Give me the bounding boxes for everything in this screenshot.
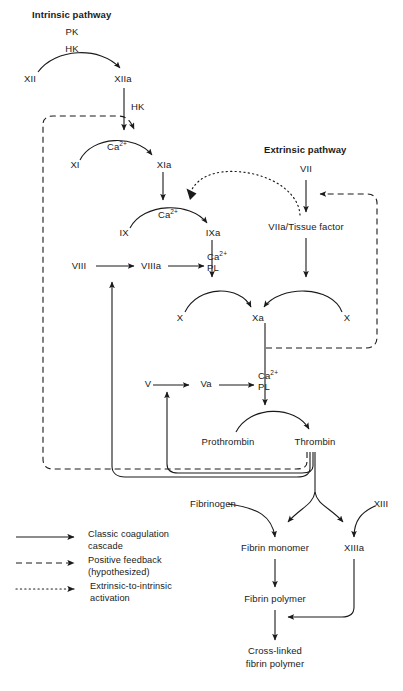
node-xii: XII xyxy=(24,74,36,85)
node-prothrombin: Prothrombin xyxy=(202,437,255,448)
node-x-intrinsic: X xyxy=(177,313,183,324)
node-fibrin-polymer: Fibrin polymer xyxy=(244,594,306,605)
arrow-thrombin-to-fibrin-monomer xyxy=(288,492,315,522)
node-hk-top: HK xyxy=(65,44,78,55)
heading-intrinsic-pathway: Intrinsic pathway xyxy=(32,10,111,21)
node-xiii: XIII xyxy=(374,499,389,510)
arrow-x-to-xa-intrinsic xyxy=(185,291,251,312)
legend-label-solid-line2: cascade xyxy=(88,541,123,552)
node-ix: IX xyxy=(119,228,128,239)
label-calcium-xi: Ca2+ xyxy=(107,140,127,153)
node-xiiia: XIIIa xyxy=(344,543,364,554)
feedback-xa-to-vii xyxy=(266,194,377,348)
legend-label-dashed-line2: (hypothesized) xyxy=(88,567,150,578)
extrinsic-to-intrinsic-arrowhead xyxy=(187,189,197,201)
node-crosslinked-line2: fibrin polymer xyxy=(246,659,304,670)
label-calcium-ix: Ca2+ xyxy=(158,208,178,221)
label-pl-x: PL xyxy=(207,263,219,274)
node-xa: Xa xyxy=(252,313,264,324)
node-fibrin-monomer: Fibrin monomer xyxy=(241,543,309,554)
legend-label-dotted-line2: activation xyxy=(90,593,130,604)
node-viiia: VIIIa xyxy=(141,261,161,272)
arrow-xiii-to-xiiia xyxy=(354,506,375,537)
extrinsic-to-intrinsic-dotted xyxy=(190,171,300,215)
node-pk: PK xyxy=(66,27,79,38)
heading-extrinsic-pathway: Extrinsic pathway xyxy=(264,145,346,156)
arrow-x-to-xa-extrinsic xyxy=(264,291,342,312)
node-xi: XI xyxy=(70,160,79,171)
feedback-thrombin-to-v xyxy=(167,392,313,473)
coagulation-cascade-diagram xyxy=(0,0,403,691)
node-xiia: XIIa xyxy=(114,74,131,85)
node-xia: XIa xyxy=(157,160,172,171)
node-v: V xyxy=(145,379,151,390)
legend-label-dotted-line1: Extrinsic-to-intrinsic xyxy=(90,581,172,592)
arrow-thrombin-to-xiiia xyxy=(315,492,343,522)
legend-label-dashed-line1: Positive feedback xyxy=(88,555,162,566)
arrow-xii-to-xiia xyxy=(38,53,120,72)
node-vii: VII xyxy=(300,164,312,175)
label-hk-cofactor: HK xyxy=(131,102,144,113)
node-thrombin: Thrombin xyxy=(295,437,336,448)
node-x-extrinsic: X xyxy=(344,313,350,324)
arrow-xiiia-to-crosslink xyxy=(288,559,354,617)
node-fibrinogen: Fibrinogen xyxy=(190,499,236,510)
node-ixa: IXa xyxy=(206,228,221,239)
node-crosslinked-line1: Cross-linked xyxy=(248,646,302,657)
legend-label-solid-line1: Classic coagulation xyxy=(88,529,169,540)
arrow-prothrombin-to-thrombin xyxy=(236,411,309,432)
feedback-thrombin-to-xi xyxy=(43,116,307,469)
node-va: Va xyxy=(200,379,211,390)
label-pl-prothrombinase: PL xyxy=(258,382,270,393)
node-viii: VIII xyxy=(72,261,87,272)
node-viia-tissue-factor: VIIa/Tissue factor xyxy=(268,222,343,233)
